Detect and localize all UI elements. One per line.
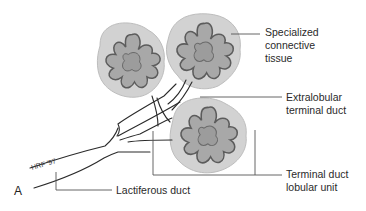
lobule-upper-right [166, 14, 240, 89]
label-line: lobular unit [286, 181, 348, 194]
panel-letter: A [14, 184, 22, 198]
label-line: terminal duct [286, 104, 346, 117]
label-line: connective [265, 39, 319, 52]
label-line: Specialized [265, 26, 319, 39]
duct-system [30, 80, 192, 188]
label-extralobular-terminal-duct: Extralobular terminal duct [286, 91, 346, 117]
label-specialized-connective-tissue: Specialized connective tissue [265, 26, 319, 65]
lobule-lower [170, 98, 246, 173]
artist-signature: HRF '97 [30, 157, 56, 171]
label-line: Lactiferous duct [116, 184, 190, 197]
label-terminal-duct-lobular-unit: Terminal duct lobular unit [286, 168, 348, 194]
label-line: tissue [265, 52, 319, 65]
lobule-left [97, 23, 164, 97]
label-lactiferous-duct: Lactiferous duct [116, 184, 190, 197]
label-line: Extralobular [286, 91, 346, 104]
label-line: Terminal duct [286, 168, 348, 181]
